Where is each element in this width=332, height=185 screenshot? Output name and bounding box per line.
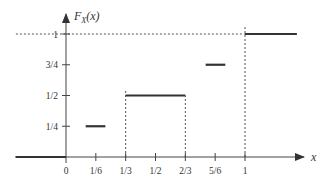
x-tick-label: 1/3	[120, 166, 132, 176]
step-segments	[16, 34, 297, 157]
x-tick-label: 1/2	[149, 166, 161, 176]
y-tick-label: 1	[53, 30, 58, 40]
x-axis-title: x	[310, 150, 317, 164]
y-tick-label: 3/4	[46, 60, 58, 70]
x-tick-label: 0	[64, 166, 69, 176]
x-tick-label: 1	[243, 166, 248, 176]
ticks	[62, 34, 245, 161]
y-tick-label: 1/4	[46, 122, 58, 132]
tick-labels: 01/61/31/22/35/611/41/23/41	[46, 30, 248, 177]
y-axis-title: FX(x)	[73, 9, 100, 25]
y-tick-label: 1/2	[46, 91, 58, 101]
x-tick-label: 1/6	[90, 166, 102, 176]
x-tick-label: 5/6	[209, 166, 221, 176]
x-tick-label: 2/3	[179, 166, 191, 176]
cdf-step-chart: 01/61/31/22/35/611/41/23/41 FX(x) x	[0, 0, 332, 185]
axes	[15, 14, 304, 163]
